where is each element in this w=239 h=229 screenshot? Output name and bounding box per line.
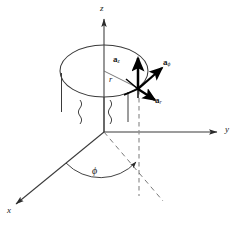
vector-tail-upper-left [126,79,138,89]
a-r-vector-label: ar [155,96,162,106]
a-z-subscript: z [118,58,120,64]
cylinder-side-lines [62,73,129,132]
a-phi-vector [138,68,162,89]
radius-label: r [109,75,112,84]
a-phi-subscript: ϕ [168,61,171,67]
vector-tail-lower-left [124,89,138,95]
cylindrical-coordinates-figure: z y x r ϕ az aϕ ar [0,0,239,229]
a-phi-vector-label: aϕ [163,58,170,68]
x-axis-line [16,132,104,204]
axis-group [16,19,217,204]
phi-angle-arc [66,162,136,178]
wavy-break-lines [78,100,111,124]
projection-lines [104,90,163,201]
a-r-vector [138,89,155,100]
phi-angle-label: ϕ [92,166,97,176]
unit-vector-group [124,58,162,100]
wavy-line-right [108,100,111,124]
y-axis-label: y [225,125,229,134]
x-axis-label: x [7,206,11,215]
wavy-line-left [78,100,81,124]
a-r-subscript: r [160,99,162,105]
z-axis-label: z [100,4,104,13]
projection-radial-dashed [104,132,163,201]
a-z-vector-label: az [113,55,120,65]
figure-canvas [0,0,239,229]
